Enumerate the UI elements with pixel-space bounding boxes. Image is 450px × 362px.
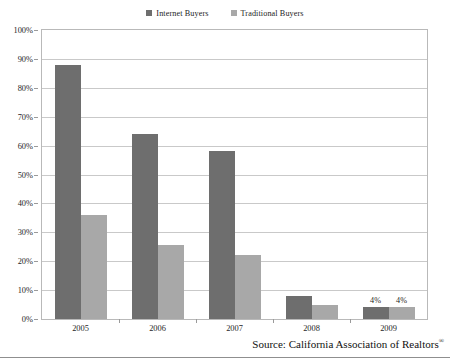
gridline: [42, 261, 427, 262]
y-axis-tick-mark: [34, 88, 38, 89]
gridline: [42, 59, 427, 60]
gridline: [42, 88, 427, 89]
gridline: [42, 290, 427, 291]
x-axis-tick-label: 2007: [226, 324, 243, 333]
legend-entry: Traditional Buyers: [231, 9, 304, 18]
y-axis-tick-mark: [34, 146, 38, 147]
y-axis-tick-label: 60%: [18, 141, 33, 150]
y-axis-tick-mark: [34, 117, 38, 118]
gridline: [42, 117, 427, 118]
y-axis-tick-label: 70%: [18, 112, 33, 121]
x-axis-tick-label: 2008: [303, 324, 320, 333]
y-axis-tick-label: 0%: [22, 315, 33, 324]
y-axis-tick-mark: [34, 261, 38, 262]
y-axis-tick-label: 10%: [18, 286, 33, 295]
y-axis-tick-mark: [34, 59, 38, 60]
y-axis-tick-mark: [34, 203, 38, 204]
x-axis-tick-mark: [196, 319, 197, 323]
source-text: Source: California Association of Realto…: [252, 338, 438, 350]
bottom-divider: [0, 357, 450, 358]
source-note: Source: California Association of Realto…: [252, 337, 444, 350]
y-axis-tick-mark: [34, 30, 38, 31]
y-axis-tick-label: 40%: [18, 199, 33, 208]
x-axis-tick-mark: [119, 319, 120, 323]
legend-label: Internet Buyers: [156, 9, 208, 18]
y-axis-tick-label: 80%: [18, 83, 33, 92]
legend-label: Traditional Buyers: [241, 9, 304, 18]
y-axis-tick-mark: [34, 175, 38, 176]
gridline: [42, 232, 427, 233]
gridline: [42, 175, 427, 176]
y-axis-tick-label: 90%: [18, 54, 33, 63]
square-marker: [231, 10, 237, 16]
y-axis-tick-label: 50%: [18, 170, 33, 179]
x-axis-tick-label: 2009: [380, 324, 397, 333]
plot-area: [41, 29, 428, 320]
gridline: [42, 203, 427, 204]
y-axis-tick-label: 30%: [18, 228, 33, 237]
square-marker: [146, 10, 152, 16]
x-axis-tick-mark: [350, 319, 351, 323]
y-axis-tick-mark: [34, 319, 38, 320]
y-axis-tick-label: 20%: [18, 257, 33, 266]
x-axis: 20052006200720082009: [42, 322, 427, 338]
legend-entry: Internet Buyers: [146, 9, 208, 18]
x-axis-tick-label: 2006: [149, 324, 166, 333]
chart-legend: Internet BuyersTraditional Buyers: [0, 5, 450, 21]
gridline: [42, 146, 427, 147]
y-axis-tick-mark: [34, 290, 38, 291]
x-axis-tick-label: 2005: [72, 324, 89, 333]
y-axis-tick-mark: [34, 232, 38, 233]
x-axis-tick-mark: [273, 319, 274, 323]
y-axis: 0%10%20%30%40%50%60%70%80%90%100%: [0, 29, 38, 320]
registered-trademark-symbol: ®: [439, 337, 444, 345]
y-axis-tick-label: 100%: [13, 26, 33, 35]
